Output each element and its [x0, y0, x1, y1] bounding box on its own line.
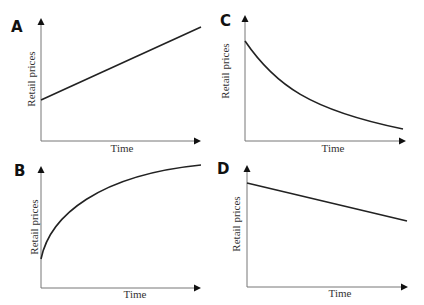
y-axis-arrow-icon-b [38, 166, 45, 173]
chart-grid: A Time Retail prices C Time Retail price… [0, 0, 424, 305]
chart-panel-d: D Time Retail prices [217, 160, 408, 299]
y-axis-label-b: Retail prices [28, 199, 40, 254]
price-line-d [247, 183, 407, 221]
price-line-a [41, 27, 201, 100]
chart-panel-c: C Time Retail prices [219, 12, 406, 154]
x-axis-label-a: Time [111, 142, 134, 154]
x-axis-arrow-icon-c [399, 138, 406, 145]
y-axis-arrow-icon-d [244, 165, 251, 172]
y-axis-label-d: Retail prices [230, 196, 242, 251]
price-curve-c [245, 41, 403, 129]
panel-letter-b: B [14, 162, 25, 180]
x-axis-label-b: Time [124, 288, 147, 300]
y-axis-arrow-icon-c [242, 15, 249, 22]
x-axis-arrow-icon-b [194, 285, 201, 292]
x-axis-label-c: Time [322, 142, 345, 154]
y-axis-arrow-icon-a [38, 18, 45, 25]
chart-panel-a: A Time Retail prices [11, 18, 201, 154]
y-axis-label-c: Retail prices [219, 43, 231, 98]
y-axis-label-a: Retail prices [25, 51, 37, 106]
panel-letter-d: D [217, 160, 229, 178]
x-axis-arrow-icon-d [401, 284, 408, 291]
chart-panel-b: B Time Retail prices [14, 162, 201, 300]
panel-letter-a: A [11, 18, 23, 36]
x-axis-label-d: Time [329, 287, 352, 299]
panel-letter-c: C [220, 12, 231, 30]
x-axis-arrow-icon-a [194, 138, 201, 145]
price-curve-b [41, 165, 201, 259]
